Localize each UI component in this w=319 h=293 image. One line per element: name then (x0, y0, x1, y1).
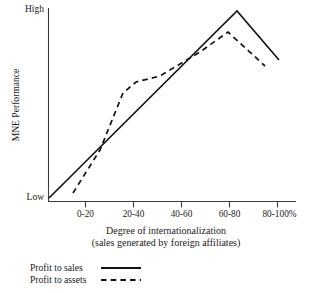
x-tick-label-2: 40-60 (171, 209, 193, 219)
x-axis-title-line1: Degree of internationalization (106, 225, 226, 236)
legend-label-profit-to-sales: Profit to sales (30, 262, 83, 273)
y-axis-title: MNE Performance (10, 69, 21, 142)
x-tick-label-3: 60-80 (219, 209, 241, 219)
y-axis-top-label: High (25, 4, 44, 14)
series-profit-to-assets (73, 32, 265, 193)
chart-legend: Profit to sales Profit to assets (30, 262, 141, 285)
x-axis-ticks (86, 202, 278, 208)
line-chart-svg: High Low MNE Performance 0-20 20-40 40-6… (0, 0, 319, 293)
y-axis-bottom-label: Low (27, 192, 45, 202)
x-axis-title-line2: (sales generated by foreign affiliates) (92, 237, 241, 249)
chart-figure: High Low MNE Performance 0-20 20-40 40-6… (0, 0, 319, 293)
series-profit-to-sales (49, 11, 279, 198)
x-tick-label-4: 80-100% (262, 209, 296, 219)
legend-label-profit-to-assets: Profit to assets (30, 274, 87, 285)
x-tick-label-1: 20-40 (123, 209, 145, 219)
x-tick-label-0: 0-20 (77, 209, 94, 219)
x-axis-tick-labels: 0-20 20-40 40-60 60-80 80-100% (77, 209, 297, 219)
